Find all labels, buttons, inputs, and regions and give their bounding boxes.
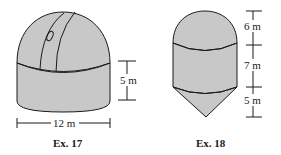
ex17-dome xyxy=(17,12,110,73)
ex18-top-label: 6 m xyxy=(244,20,261,32)
ex17-height-label: 5 m xyxy=(120,74,137,86)
ex18-middle-label: 7 m xyxy=(244,59,261,71)
ex17-width-label: 12 m xyxy=(53,117,76,129)
ex18-dome xyxy=(173,11,237,51)
diagram-canvas: 5 m 12 m Ex. 17 6 m 7 m xyxy=(0,0,281,155)
ex18-bottom-label: 5 m xyxy=(244,94,261,106)
ex17-caption: Ex. 17 xyxy=(53,137,83,149)
ex18-caption: Ex. 18 xyxy=(196,137,226,149)
figure-ex18: 6 m 7 m 5 m Ex. 18 xyxy=(173,11,265,149)
figure-ex17: 5 m 12 m Ex. 17 xyxy=(17,12,143,149)
